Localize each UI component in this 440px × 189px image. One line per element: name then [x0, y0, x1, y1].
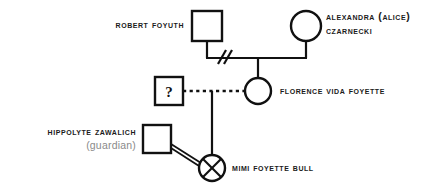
person-role-hippolyte-guardian: (guardian) — [6, 139, 136, 153]
person-label-alexandra-line2: Czarnecki — [326, 24, 438, 38]
person-label-robert: Robert Foyuth — [72, 18, 184, 32]
unknown-father-question-mark: ? — [165, 84, 173, 100]
person-label-florence: Florence Vida Foyette — [280, 84, 430, 98]
person-symbol-robert-male-square[interactable] — [192, 11, 222, 41]
person-symbol-florence-female-circle[interactable] — [245, 78, 271, 104]
person-symbol-hippolyte-male-square[interactable] — [143, 125, 171, 153]
person-label-mimi: Mimi Foyette Bull — [232, 161, 382, 175]
person-label-hippolyte: Hippolyte Zawalich — [6, 125, 136, 139]
guardianship-double-line — [171, 144, 201, 166]
person-symbol-alexandra-female-circle[interactable] — [291, 11, 321, 41]
person-label-alexandra-line1: Alexandra (Alice) — [326, 10, 438, 24]
